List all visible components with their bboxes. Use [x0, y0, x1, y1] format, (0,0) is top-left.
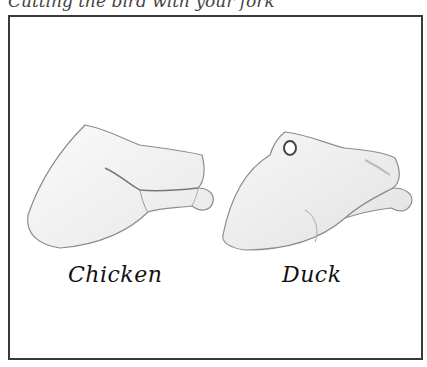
chicken-leg-drawing	[20, 120, 220, 255]
chicken-label: Chicken	[68, 262, 162, 287]
duck-label: Duck	[282, 262, 341, 287]
duck-leg-drawing	[215, 120, 415, 255]
caption-text: Cutting the bird with your fork	[8, 0, 275, 11]
